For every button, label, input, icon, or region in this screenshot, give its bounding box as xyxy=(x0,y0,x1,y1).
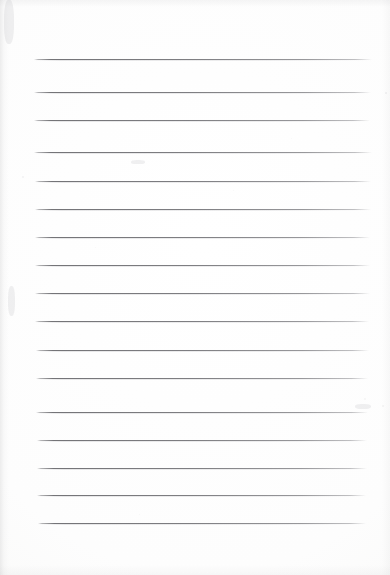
scanned-page xyxy=(0,0,390,575)
handwriting-layer xyxy=(0,0,390,575)
